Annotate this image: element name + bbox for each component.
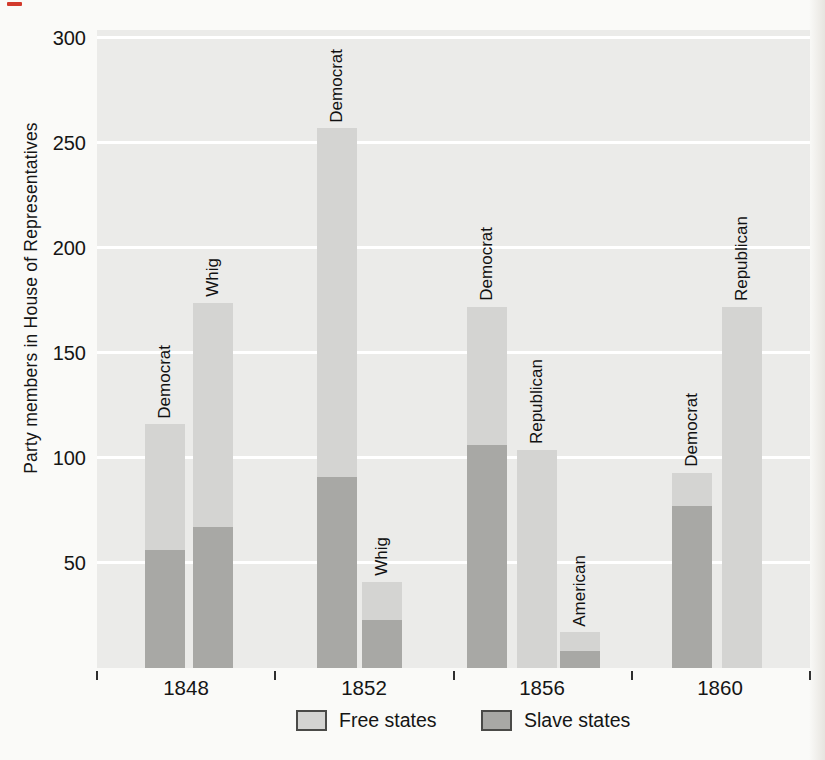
- bar-1856-republican: Republican: [517, 450, 557, 668]
- x-tick-mark-4: [809, 671, 811, 680]
- bar-1852-democrat: Democrat: [317, 128, 357, 668]
- x-group-label-1860: 1860: [660, 676, 780, 700]
- bar-label-1856-american: American: [571, 555, 589, 627]
- legend-item-slave-states: Slave states: [481, 709, 630, 732]
- bar-1860-democrat: Democrat: [672, 473, 712, 668]
- y-tick-label-250: 250: [0, 131, 86, 155]
- y-tick-label-200: 200: [0, 236, 86, 260]
- bar-segment-slave-states: [317, 477, 357, 668]
- x-group-label-1856: 1856: [482, 676, 602, 700]
- bar-label-1848-democrat: Democrat: [156, 345, 174, 419]
- bar-segment-slave-states: [193, 527, 233, 668]
- y-axis-title: Party members in House of Representative…: [21, 122, 42, 474]
- gridline-250: [97, 141, 810, 144]
- bar-1848-whig: Whig: [193, 303, 233, 668]
- x-group-label-1852: 1852: [304, 676, 424, 700]
- x-tick-mark-2: [453, 671, 455, 680]
- x-tick-mark-0: [96, 671, 98, 680]
- bar-segment-slave-states: [560, 651, 600, 668]
- y-tick-label-300: 300: [0, 26, 86, 50]
- bar-label-1856-democrat: Democrat: [478, 227, 496, 301]
- bar-1856-democrat: Democrat: [467, 307, 507, 668]
- legend-label-free-states: Free states: [339, 709, 437, 732]
- legend-item-free-states: Free states: [296, 709, 437, 732]
- x-group-label-1848: 1848: [126, 676, 246, 700]
- bar-label-1848-whig: Whig: [204, 258, 222, 297]
- bar-1848-democrat: Democrat: [145, 424, 185, 668]
- bar-segment-slave-states: [467, 445, 507, 668]
- bar-label-1860-democrat: Democrat: [683, 393, 701, 467]
- bar-label-1856-republican: Republican: [528, 359, 546, 444]
- bar-label-1852-whig: Whig: [373, 537, 391, 576]
- x-tick-mark-1: [274, 671, 276, 680]
- chart-plot-area: DemocratWhigDemocratWhigDemocratRepublic…: [97, 30, 810, 668]
- y-tick-label-100: 100: [0, 446, 86, 470]
- legend-label-slave-states: Slave states: [524, 709, 630, 732]
- gridline-300: [97, 36, 810, 39]
- slave-states-swatch: [481, 710, 512, 731]
- bar-segment-slave-states: [672, 506, 712, 668]
- y-tick-label-150: 150: [0, 341, 86, 365]
- bar-label-1860-republican: Republican: [733, 216, 751, 301]
- bar-1856-american: American: [560, 632, 600, 668]
- red-scan-mark: [7, 2, 22, 6]
- page-edge-shading: [809, 0, 825, 760]
- free-states-swatch: [296, 710, 327, 731]
- y-tick-label-50: 50: [0, 551, 86, 575]
- gridline-200: [97, 246, 810, 249]
- bar-1852-whig: Whig: [362, 582, 402, 668]
- scanned-book-page: Party members in House of Representative…: [0, 0, 825, 760]
- x-tick-mark-3: [631, 671, 633, 680]
- bar-segment-slave-states: [362, 620, 402, 668]
- bar-segment-slave-states: [145, 550, 185, 668]
- bar-label-1852-democrat: Democrat: [328, 49, 346, 123]
- bar-1860-republican: Republican: [722, 307, 762, 668]
